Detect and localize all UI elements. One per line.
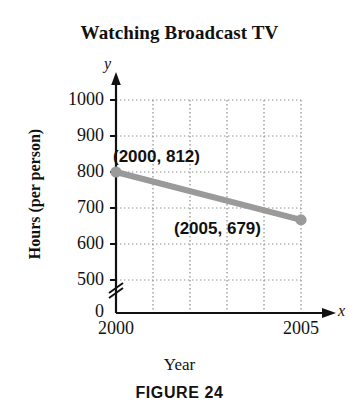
data-series-line <box>110 166 306 225</box>
y-axis-line <box>111 72 121 313</box>
data-point-marker-2000 <box>110 166 121 177</box>
horizontal-gridlines <box>116 100 301 280</box>
y-tick-label-800: 800 <box>46 161 104 182</box>
figure-caption: FIGURE 24 <box>0 384 359 402</box>
x-tick-label-2000: 2000 <box>76 318 156 339</box>
x-axis-line <box>116 308 336 318</box>
annotation-point-2005: (2005, 679) <box>174 219 261 239</box>
vertical-gridlines <box>153 100 301 313</box>
data-point-marker-2005 <box>295 214 306 225</box>
y-tick-label-500: 500 <box>46 269 104 290</box>
y-tick-label-600: 600 <box>46 233 104 254</box>
y-tick-label-700: 700 <box>46 197 104 218</box>
y-axis-arrowhead <box>111 72 121 85</box>
x-tick-label-2005: 2005 <box>261 318 341 339</box>
figure-container: Watching Broadcast TV y x Hours (per per… <box>0 0 359 406</box>
y-tick-label-1000: 1000 <box>46 89 104 110</box>
x-axis-arrowhead <box>322 308 336 318</box>
annotation-point-2000: (2000, 812) <box>113 147 200 167</box>
y-tick-label-900: 900 <box>46 125 104 146</box>
